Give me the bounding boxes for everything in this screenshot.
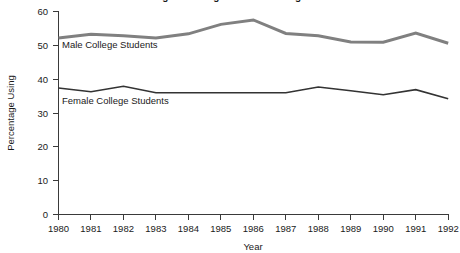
y-tick-label: 50 <box>37 40 48 51</box>
x-tick-label: 1985 <box>210 223 231 234</box>
x-axis-ticks <box>59 215 449 221</box>
y-tick-label: 0 <box>43 209 48 220</box>
x-tick-label: 1990 <box>373 223 394 234</box>
y-tick-label: 60 <box>37 6 48 17</box>
x-tick-label: 1982 <box>113 223 134 234</box>
x-tick-label: 1991 <box>405 223 426 234</box>
x-tick-label: 1981 <box>80 223 101 234</box>
male-series-label: Male College Students <box>62 39 158 50</box>
y-axis-ticks <box>53 12 59 215</box>
x-tick-label: 1989 <box>340 223 361 234</box>
x-axis-tick-labels: 1980 1981 1982 1983 1984 1985 1986 1987 … <box>48 223 459 234</box>
x-tick-label: 1980 <box>48 223 69 234</box>
y-tick-label: 30 <box>37 108 48 119</box>
x-tick-label: 1986 <box>243 223 264 234</box>
x-tick-label: 1984 <box>178 223 199 234</box>
x-tick-label: 1992 <box>438 223 459 234</box>
y-axis-title: Percentage Using <box>5 75 16 151</box>
y-tick-label: 10 <box>37 175 48 186</box>
chart-figure: Percentage of College Students Using Alc… <box>0 0 460 253</box>
x-axis-title: Year <box>243 241 262 252</box>
y-tick-label: 40 <box>37 74 48 85</box>
x-tick-label: 1988 <box>308 223 329 234</box>
y-tick-label: 20 <box>37 141 48 152</box>
line-chart-plot: 60 50 40 30 20 10 0 Percentage Using <box>0 0 460 253</box>
female-series-label: Female College Students <box>62 95 169 106</box>
x-tick-label: 1987 <box>275 223 296 234</box>
x-tick-label: 1983 <box>145 223 166 234</box>
y-axis-tick-labels: 60 50 40 30 20 10 0 <box>37 6 48 220</box>
